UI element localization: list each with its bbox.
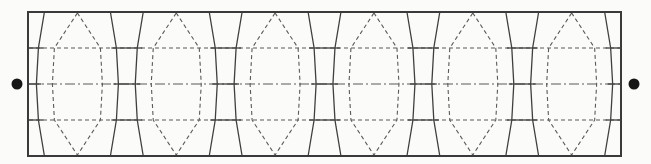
right-pivot-dot (629, 79, 640, 90)
panel-buckling-diagram (0, 0, 651, 164)
diagram-canvas (0, 0, 651, 164)
paper-background (0, 0, 651, 164)
left-pivot-dot (12, 79, 23, 90)
